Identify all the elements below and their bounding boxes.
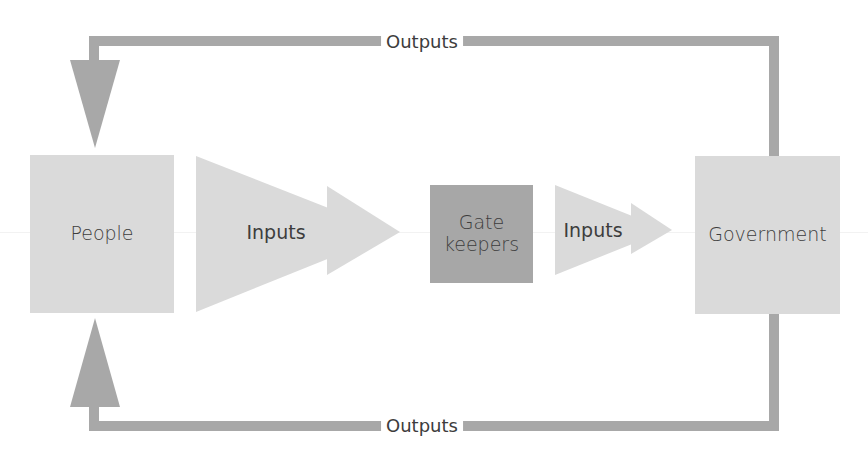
government-node: Government bbox=[695, 156, 840, 314]
outputs-bottom-connector bbox=[70, 313, 779, 431]
top-right-vertical-bar bbox=[769, 36, 779, 156]
gatekeepers-node: Gate keepers bbox=[430, 185, 533, 283]
outputs-bottom-label: Outputs bbox=[381, 417, 463, 435]
gatekeepers-label-line1: Gate bbox=[459, 212, 505, 234]
people-label: People bbox=[70, 223, 133, 245]
top-left-vertical-bar bbox=[89, 36, 99, 62]
outputs-top-connector bbox=[70, 36, 779, 156]
inputs-2-label: Inputs bbox=[563, 221, 622, 240]
political-system-diagram: People Gate keepers Government Inputs In… bbox=[0, 0, 868, 455]
outputs-top-label: Outputs bbox=[381, 33, 463, 51]
up-arrow-head-icon bbox=[70, 318, 120, 407]
inputs-2-small-triangle bbox=[631, 203, 672, 254]
inputs-1-label: Inputs bbox=[246, 223, 305, 242]
inputs-1-small-triangle bbox=[327, 186, 400, 275]
government-label: Government bbox=[708, 224, 827, 246]
down-arrow-head-icon bbox=[70, 60, 120, 148]
bottom-left-vertical-bar bbox=[89, 405, 99, 431]
gatekeepers-label-line2: keepers bbox=[444, 234, 519, 256]
people-node: People bbox=[30, 155, 174, 313]
bottom-right-vertical-bar bbox=[769, 313, 779, 431]
